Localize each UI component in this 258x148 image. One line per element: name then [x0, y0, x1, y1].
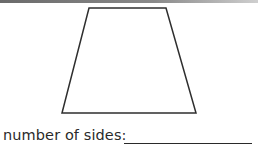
- trapezoid-shape: [0, 0, 258, 120]
- number-of-sides-answer-line[interactable]: [124, 143, 252, 144]
- number-of-sides-label: number of sides:: [3, 127, 127, 143]
- trapezoid-outline: [62, 8, 196, 113]
